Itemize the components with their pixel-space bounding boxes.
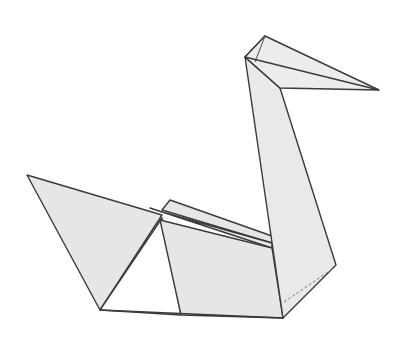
origami-swan-diagram — [0, 0, 403, 342]
